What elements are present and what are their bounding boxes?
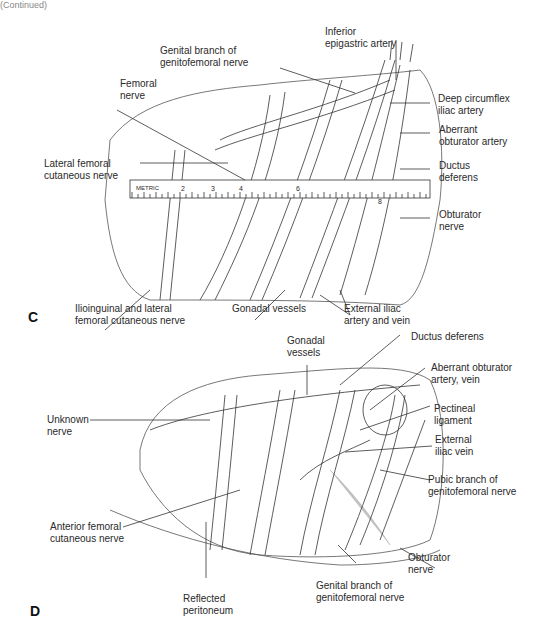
label-lateral-femoral: Lateral femoral cutaneous nerve	[44, 158, 118, 181]
ruler-tick-6: 6	[296, 183, 300, 195]
panel-letter-d: D	[30, 603, 40, 619]
label-pectineal-ligament: Pectineal ligament	[434, 403, 475, 426]
label-ductus-deferens-d: Ductus deferens	[411, 331, 484, 343]
ruler-tick-8: 8	[378, 196, 382, 208]
label-genital-branch-d: Genital branch of genitofemoral nerve	[316, 580, 404, 603]
label-reflected-peritoneum: Reflected peritoneum	[183, 593, 233, 616]
label-unknown-nerve: Unknown nerve	[47, 414, 89, 437]
label-aberrant-obturator-artery: Aberrant obturator artery	[439, 124, 507, 147]
label-pubic-branch: Pubic branch of genitofemoral nerve	[428, 474, 516, 497]
ruler-tick-2: 2	[181, 183, 185, 195]
label-aberrant-obturator-d: Aberrant obturator artery, vein	[431, 362, 512, 385]
label-obturator-nerve-d: Obturator nerve	[408, 552, 450, 575]
label-deep-circumflex: Deep circumflex iliac artery	[438, 93, 510, 116]
label-gonadal-vessels-d: Gonadal vessels	[287, 335, 325, 358]
label-genital-branch-c: Genital branch of genitofemoral nerve	[160, 45, 248, 68]
label-anterior-femoral: Anterior femoral cutaneous nerve	[50, 521, 124, 544]
label-femoral-nerve: Femoral nerve	[120, 78, 157, 101]
label-external-iliac: External iliac artery and vein	[344, 303, 410, 326]
label-external-iliac-vein: External iliac vein	[435, 434, 473, 457]
ruler-tick-4: 4	[239, 183, 243, 195]
label-obturator-nerve-c: Obturator nerve	[439, 209, 481, 232]
ruler-label: METRIC	[136, 183, 159, 195]
label-gonadal-vessels-c: Gonadal vessels	[232, 303, 306, 315]
label-ductus-deferens-c: Ductus deferens	[439, 160, 478, 183]
panel-letter-c: C	[28, 309, 38, 325]
label-inferior-epigastric: Inferior epigastric artery	[325, 26, 396, 49]
label-ilioinguinal: Ilioinguinal and lateral femoral cutaneo…	[75, 303, 185, 326]
ruler-tick-3: 3	[211, 183, 215, 195]
